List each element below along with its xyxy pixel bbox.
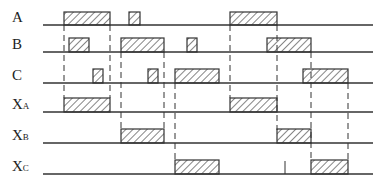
pulse: [121, 38, 164, 52]
pulse: [64, 98, 110, 112]
pulse: [129, 12, 140, 25]
signal-row-xc: [43, 160, 373, 174]
pulse: [69, 38, 89, 52]
pulse: [175, 160, 219, 174]
pulse: [277, 129, 311, 143]
timing-diagram: [0, 0, 390, 187]
signal-row-b: [43, 38, 373, 52]
pulse: [230, 12, 277, 25]
signal-row-a: [43, 12, 373, 25]
pulse: [187, 38, 197, 52]
pulse: [64, 12, 110, 25]
pulse: [148, 69, 158, 83]
pulse: [267, 38, 311, 52]
pulse: [311, 160, 348, 174]
pulse: [121, 129, 164, 143]
pulse: [303, 69, 348, 83]
pulse: [93, 69, 103, 83]
pulse: [230, 98, 277, 112]
signal-row-c: [43, 69, 373, 83]
signal-row-xb: [43, 129, 373, 143]
signal-row-xa: [43, 98, 373, 112]
pulse: [175, 69, 219, 83]
signal-rows: [43, 12, 373, 174]
